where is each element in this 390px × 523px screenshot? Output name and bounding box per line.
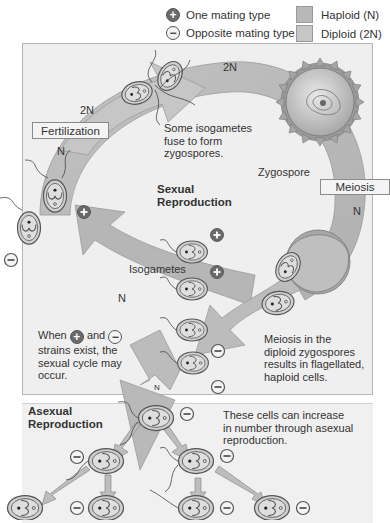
- isogametes-label: Isogametes: [129, 263, 186, 276]
- zygospore-label: Zygospore: [258, 166, 310, 179]
- minus-circle-icon: −: [108, 330, 122, 344]
- title-line: Sexual: [157, 183, 232, 196]
- meiosis-label: Meiosis: [320, 179, 390, 195]
- note-line: Meiosis in the: [264, 333, 364, 346]
- when-strains-note: When + and − strains exist, the sexual c…: [38, 329, 122, 382]
- ploidy-label-2n-top: 2N: [223, 61, 237, 74]
- note-line: diploid zygospores: [264, 346, 364, 359]
- ploidy-label-n-right: N: [353, 205, 361, 218]
- note-text: When: [38, 329, 67, 341]
- zygospore-icon: [276, 58, 364, 146]
- asexual-note: These cells can increase in number throu…: [223, 409, 353, 447]
- ploidy-label-2n-left: 2N: [80, 104, 94, 117]
- note-line: results in flagellated,: [264, 358, 364, 371]
- note-line: reproduction.: [223, 434, 353, 447]
- note-text: and: [87, 329, 105, 341]
- fertilization-label: Fertilization: [32, 122, 109, 139]
- note-line: fuse to form: [164, 135, 252, 148]
- branch-arrow: [130, 330, 180, 390]
- title-line: Reproduction: [28, 418, 103, 431]
- note-line: in number through asexual: [223, 422, 353, 435]
- title-line: Asexual: [28, 405, 103, 418]
- title-line: Reproduction: [157, 196, 232, 209]
- note-line: sexual cycle may: [38, 357, 122, 370]
- note-line: haploid cells.: [264, 371, 364, 384]
- sexual-reproduction-title: Sexual Reproduction: [157, 183, 232, 209]
- fuse-note: Some isogametes fuse to form zygospores.: [164, 122, 252, 160]
- return-arrow: [75, 205, 255, 305]
- meiosis-note: Meiosis in the diploid zygospores result…: [264, 333, 364, 383]
- ploidy-label-n-left: N: [57, 145, 65, 158]
- note-line: occur.: [38, 369, 122, 382]
- note-line: zygospores.: [164, 147, 252, 160]
- ploidy-label-n-branch: N: [154, 382, 160, 395]
- note-line: Some isogametes: [164, 122, 252, 135]
- note-line: These cells can increase: [223, 409, 353, 422]
- plus-circle-icon: +: [70, 330, 84, 344]
- note-line: When + and −: [38, 329, 122, 344]
- ploidy-label-n-bottom: N: [118, 292, 126, 305]
- asexual-reproduction-title: Asexual Reproduction: [28, 405, 103, 431]
- note-line: strains exist, the: [38, 344, 122, 357]
